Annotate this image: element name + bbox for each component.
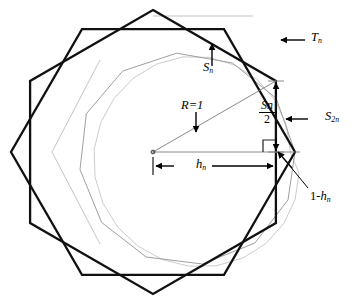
diagram-canvas — [0, 0, 359, 296]
label-h-n: hn — [196, 158, 206, 172]
inner-polygon-12 — [80, 53, 295, 264]
label-s-n: Sn — [203, 61, 213, 75]
dimension-h-n — [153, 157, 276, 175]
construction-lines — [153, 81, 300, 152]
label-one-minus-h-n: 1-hn — [310, 190, 331, 204]
half-side-denominator: 2 — [259, 113, 275, 126]
right-angle-marker — [263, 140, 276, 152]
label-t-n: Tn — [311, 31, 322, 45]
label-s-2n: S2n — [325, 110, 339, 124]
half-side-numerator: Sn — [259, 99, 275, 113]
label-radius: R=1 — [181, 99, 203, 112]
label-half-side: Sn 2 — [259, 99, 275, 125]
geometry-diagram: Tn Sn S2n R=1 hn 1-hn Sn 2 — [0, 0, 359, 296]
